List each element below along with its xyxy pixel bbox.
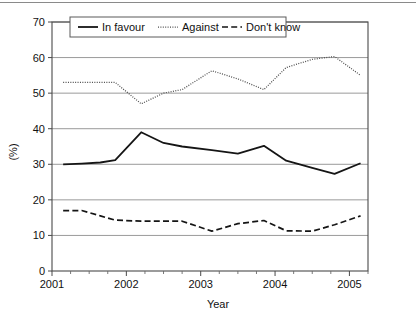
x-axis-ticks: [52, 271, 349, 276]
y-axis-tick-labels: 010203040506070: [33, 16, 45, 277]
x-axis-tick-labels: 20012002200320042005: [40, 278, 362, 290]
y-tick-label: 50: [33, 87, 45, 99]
x-tick-label: 2005: [337, 278, 361, 290]
x-axis-title: Year: [207, 298, 230, 310]
gridlines: [52, 22, 368, 235]
series-line-against: [63, 57, 360, 104]
y-axis-title: (%): [7, 143, 19, 160]
series-line-in-favour: [63, 132, 360, 174]
legend-label-don-t-know: Don't know: [246, 21, 300, 33]
y-tick-label: 20: [33, 194, 45, 206]
y-axis-ticks: [48, 22, 52, 271]
chart-container: 010203040506070 20012002200320042005 (%)…: [0, 0, 416, 324]
line-chart: 010203040506070 20012002200320042005 (%)…: [0, 0, 416, 324]
legend-label-against: Against: [182, 21, 219, 33]
x-tick-label: 2001: [40, 278, 64, 290]
data-series-group: [63, 57, 360, 232]
chart-legend: In favourAgainstDon't know: [70, 17, 300, 37]
y-tick-label: 30: [33, 158, 45, 170]
plot-frame: [52, 22, 368, 271]
x-tick-label: 2004: [263, 278, 287, 290]
y-tick-label: 70: [33, 16, 45, 28]
series-line-don-t-know: [63, 211, 360, 232]
y-tick-label: 10: [33, 229, 45, 241]
y-tick-label: 40: [33, 123, 45, 135]
y-tick-label: 0: [39, 265, 45, 277]
x-tick-label: 2003: [188, 278, 212, 290]
y-tick-label: 60: [33, 52, 45, 64]
x-tick-label: 2002: [114, 278, 138, 290]
legend-label-in-favour: In favour: [102, 21, 145, 33]
